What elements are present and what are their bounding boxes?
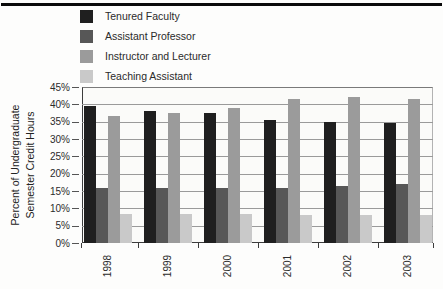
y-tick-mark bbox=[72, 191, 79, 192]
x-tick-mark bbox=[318, 243, 319, 248]
bar-2000-assistant-professor bbox=[216, 188, 228, 243]
x-tick-label: 1999 bbox=[162, 249, 174, 283]
y-tick-label: 25% bbox=[30, 151, 70, 162]
bar-2003-assistant-professor bbox=[396, 184, 408, 243]
legend-item: Tenured Faculty bbox=[80, 10, 211, 23]
bar-1999-tenured-faculty bbox=[144, 111, 156, 243]
y-tick-label: 35% bbox=[30, 116, 70, 127]
bar-1998-teaching-assistant bbox=[120, 214, 132, 243]
bar-2001-instructor-and-lecturer bbox=[288, 99, 300, 243]
y-tick-label: 30% bbox=[30, 134, 70, 145]
legend-label: Assistant Professor bbox=[105, 30, 195, 43]
legend-label: Teaching Assistant bbox=[105, 70, 192, 83]
bar-2001-tenured-faculty bbox=[264, 120, 276, 243]
plot-area bbox=[82, 87, 433, 243]
bar-2000-teaching-assistant bbox=[240, 214, 252, 243]
bar-2000-tenured-faculty bbox=[204, 113, 216, 243]
gridline bbox=[82, 122, 433, 123]
bar-1998-tenured-faculty bbox=[84, 106, 96, 243]
y-tick-mark bbox=[72, 226, 79, 227]
bar-1999-teaching-assistant bbox=[180, 214, 192, 243]
y-tick-mark bbox=[72, 243, 79, 244]
bar-2002-teaching-assistant bbox=[360, 215, 372, 243]
legend-item: Instructor and Lecturer bbox=[80, 50, 211, 63]
bar-1999-assistant-professor bbox=[156, 188, 168, 243]
bar-1998-assistant-professor bbox=[96, 188, 108, 243]
x-tick-mark bbox=[433, 243, 434, 248]
y-tick-mark bbox=[72, 156, 79, 157]
legend-swatch-icon bbox=[80, 10, 93, 23]
y-tick-label: 0% bbox=[30, 238, 70, 249]
x-tick-label: 2003 bbox=[402, 249, 414, 283]
bar-2003-teaching-assistant bbox=[420, 215, 432, 243]
x-tick-label: 1998 bbox=[102, 249, 114, 283]
y-tick-label: 5% bbox=[30, 220, 70, 231]
legend: Tenured FacultyAssistant ProfessorInstru… bbox=[80, 10, 211, 90]
bar-2001-teaching-assistant bbox=[300, 215, 312, 243]
bar-2003-instructor-and-lecturer bbox=[408, 99, 420, 243]
legend-item: Teaching Assistant bbox=[80, 70, 211, 83]
x-tick-label: 2002 bbox=[342, 249, 354, 283]
gridline bbox=[82, 156, 433, 157]
x-tick-mark bbox=[378, 243, 379, 248]
legend-swatch-icon bbox=[80, 70, 93, 83]
y-tick-mark bbox=[72, 104, 79, 105]
y-tick-label: 45% bbox=[30, 82, 70, 93]
y-tick-mark bbox=[72, 208, 79, 209]
legend-swatch-icon bbox=[80, 30, 93, 43]
legend-swatch-icon bbox=[80, 50, 93, 63]
x-tick-mark bbox=[138, 243, 139, 248]
bar-2002-instructor-and-lecturer bbox=[348, 97, 360, 243]
y-tick-label: 10% bbox=[30, 203, 70, 214]
bar-2002-assistant-professor bbox=[336, 186, 348, 243]
bar-1999-instructor-and-lecturer bbox=[168, 113, 180, 243]
legend-label: Tenured Faculty bbox=[105, 10, 180, 23]
y-tick-mark bbox=[72, 122, 79, 123]
gridline bbox=[82, 226, 433, 227]
y-axis-title-line1: Percent of Undergraduate bbox=[8, 87, 23, 243]
gridline bbox=[82, 139, 433, 140]
bar-2002-tenured-faculty bbox=[324, 122, 336, 243]
bar-1998-instructor-and-lecturer bbox=[108, 116, 120, 243]
y-tick-label: 40% bbox=[30, 99, 70, 110]
top-rule bbox=[1, 3, 442, 6]
x-tick-mark bbox=[81, 243, 82, 248]
y-tick-mark bbox=[72, 87, 79, 88]
legend-item: Assistant Professor bbox=[80, 30, 211, 43]
x-tick-mark bbox=[258, 243, 259, 248]
figure: Tenured FacultyAssistant ProfessorInstru… bbox=[0, 0, 443, 289]
gridline bbox=[82, 104, 433, 105]
bar-2000-instructor-and-lecturer bbox=[228, 108, 240, 243]
y-tick-mark bbox=[72, 139, 79, 140]
bar-2001-assistant-professor bbox=[276, 188, 288, 243]
bar-2003-tenured-faculty bbox=[384, 123, 396, 243]
x-tick-label: 2001 bbox=[282, 249, 294, 283]
gridline bbox=[82, 191, 433, 192]
gridline bbox=[82, 174, 433, 175]
x-tick-label: 2000 bbox=[222, 249, 234, 283]
x-tick-mark bbox=[198, 243, 199, 248]
y-tick-label: 15% bbox=[30, 186, 70, 197]
gridline bbox=[82, 208, 433, 209]
y-tick-mark bbox=[72, 174, 79, 175]
legend-label: Instructor and Lecturer bbox=[105, 50, 211, 63]
y-tick-label: 20% bbox=[30, 168, 70, 179]
